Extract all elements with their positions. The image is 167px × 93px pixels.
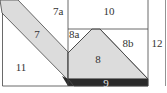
piece-9-label: 9: [103, 77, 109, 89]
piece-12-label: 12: [152, 37, 163, 49]
quilt-piecing-diagram: 7a 10 7 8a 8b 12 8 11 9: [0, 0, 167, 93]
piece-8b-label: 8b: [123, 37, 135, 49]
piece-8-label: 8: [95, 53, 101, 65]
piece-8a-label: 8a: [69, 28, 80, 40]
piece-11-label: 11: [16, 61, 27, 73]
piece-10-label: 10: [104, 5, 116, 17]
piece-7a-label: 7a: [53, 5, 64, 17]
piece-7-label: 7: [34, 28, 40, 40]
